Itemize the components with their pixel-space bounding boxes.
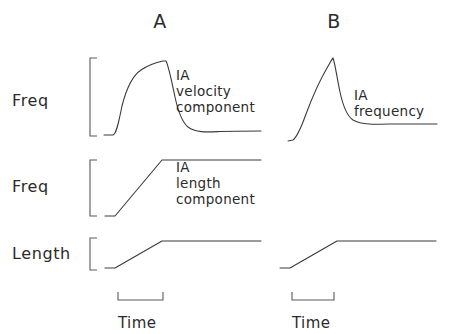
axis-label-freq-length: Freq [12, 177, 49, 196]
annotation-ia-frequency: IA frequency [354, 87, 424, 119]
panel-titles: A B [153, 10, 341, 32]
annotation-line: frequency [354, 103, 424, 119]
annotation-line: length [176, 175, 221, 191]
annotation-line: velocity [176, 83, 231, 99]
time-axis-b: Time [291, 292, 334, 332]
panel-title-b: B [327, 10, 341, 32]
time-bracket-b [292, 292, 334, 300]
time-label-a: Time [117, 314, 156, 332]
y-axis-brackets [90, 58, 97, 270]
y-bracket-freq-length [90, 160, 97, 216]
time-label-b: Time [291, 314, 330, 332]
y-bracket-length [90, 238, 97, 270]
annotation-line: component [176, 99, 255, 115]
y-bracket-freq-velocity [90, 58, 97, 136]
axis-label-freq-velocity: Freq [12, 91, 49, 110]
time-axis-a: Time [117, 292, 163, 332]
time-bracket-a [118, 292, 163, 300]
annotation-ia-velocity-component: IA velocity component [176, 67, 255, 115]
trace-b-length [280, 241, 436, 268]
annotation-line: IA [176, 67, 190, 83]
trace-a-length [105, 241, 261, 268]
figure-container: A B Freq Freq Length IA velo [0, 0, 451, 334]
row-labels: Freq Freq Length [12, 91, 71, 263]
annotation-line: component [176, 191, 255, 207]
panel-title-a: A [153, 10, 167, 32]
figure-svg: A B Freq Freq Length IA velo [0, 0, 451, 334]
annotation-line: IA [176, 159, 190, 175]
annotation-line: IA [354, 87, 368, 103]
axis-label-length: Length [12, 244, 71, 263]
annotation-ia-length-component: IA length component [176, 159, 255, 207]
